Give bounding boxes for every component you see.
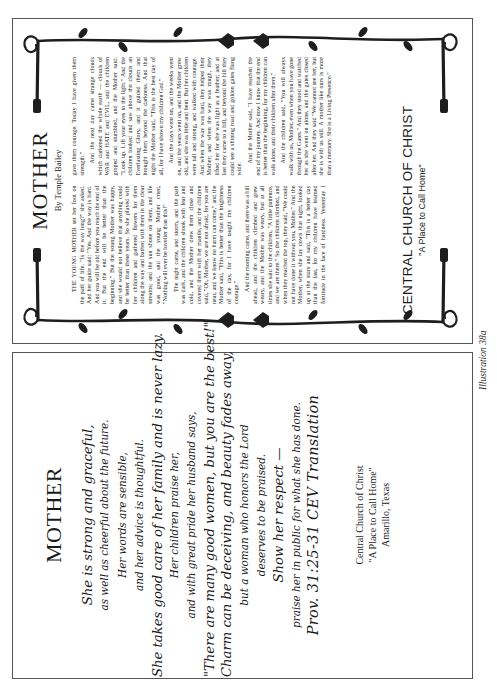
poem-line: Her words are sensible, bbox=[114, 353, 131, 677]
story-paragraph: And the next day came strange clouds whi… bbox=[89, 57, 165, 176]
bulletin-back-panel: MOTHER She is strong and graceful, as we… bbox=[12, 352, 473, 679]
poem-line: praise her in public for what she has do… bbox=[288, 353, 305, 677]
poem-title: MOTHER bbox=[41, 353, 67, 677]
poem-line: and with great pride her husband says, bbox=[183, 353, 200, 677]
poem-line: and her advice is thoughtful. bbox=[131, 353, 148, 677]
footer-church-tagline: "A Place to Call Home" bbox=[366, 353, 379, 677]
church-tagline: "A Place to Call Home" bbox=[417, 90, 427, 330]
story-paragraph: THE YOUNG MOTHER set her foot on the pat… bbox=[71, 186, 170, 305]
illustration-caption: Illustration 38a bbox=[478, 310, 492, 390]
story-paragraph: And the days went on, and the weeks went… bbox=[168, 57, 244, 176]
verse-reference: Prov. 31:25-31 CEV Translation bbox=[305, 353, 322, 677]
poem-line: but a woman who honors the Lord bbox=[236, 353, 253, 677]
story-paragraph: The night came, and storm, and the path … bbox=[173, 186, 241, 305]
story-paragraph: And the Mother said, "I have reached the… bbox=[247, 57, 277, 176]
poem-line: "There are many good women, but you are … bbox=[201, 353, 218, 677]
footer-church-location: Amarillo, Texas bbox=[379, 353, 392, 677]
poem-line: deserves to be praised. bbox=[253, 353, 270, 677]
story-byline: By Temple Bailey bbox=[53, 19, 63, 342]
story-title: MOTHER bbox=[27, 19, 53, 342]
poem-line: She is strong and graceful, bbox=[79, 353, 96, 677]
poem-line: Her children praise her, bbox=[166, 353, 183, 677]
church-identity-block: CENTRAL CHURCH OF CHRIST "A Place to Cal… bbox=[400, 90, 460, 330]
poem-line: Charm can be deceiving, and beauty fades… bbox=[218, 353, 235, 677]
story-paragraph: And the children said, "You will always … bbox=[280, 57, 333, 176]
footer-church-name: Central Church of Christ bbox=[353, 353, 366, 677]
poem-line: She takes good care of her family and is… bbox=[149, 353, 166, 677]
poem-line: as well as cheerful about the future. bbox=[96, 353, 113, 677]
poem-body: She is strong and graceful, as well as c… bbox=[79, 353, 322, 677]
poem-line: Show her respect — bbox=[270, 353, 287, 677]
church-name: CENTRAL CHURCH OF CHRIST bbox=[400, 90, 415, 330]
caption-text: Illustration 38a bbox=[478, 331, 488, 390]
church-footer: Central Church of Christ "A Place to Cal… bbox=[353, 353, 392, 677]
bulletin-back-content: MOTHER She is strong and graceful, as we… bbox=[13, 353, 471, 677]
